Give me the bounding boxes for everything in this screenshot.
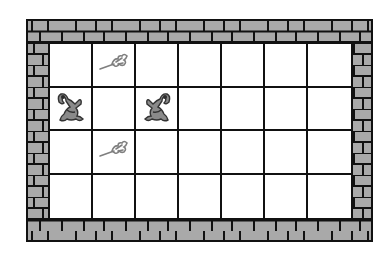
grid-cell-r2-c5[interactable] [265, 131, 308, 175]
frog-icon[interactable] [139, 88, 175, 128]
grid-cell-r3-c5[interactable] [265, 175, 308, 219]
grid-cell-r0-c5[interactable] [265, 44, 308, 88]
flower-icon [96, 132, 132, 172]
grid-cell-r2-c3[interactable] [179, 131, 222, 175]
play-grid [48, 42, 353, 220]
grid-cell-r0-c3[interactable] [179, 44, 222, 88]
grid-cell-r0-c2[interactable] [136, 44, 179, 88]
grid-cell-r0-c0[interactable] [50, 44, 93, 88]
grid-cell-r1-c0[interactable] [50, 88, 93, 132]
grid-cell-r1-c6[interactable] [308, 88, 351, 132]
grid-cell-r1-c2[interactable] [136, 88, 179, 132]
grid-cell-r2-c4[interactable] [222, 131, 265, 175]
grid-cell-r0-c4[interactable] [222, 44, 265, 88]
grid-cell-r3-c2[interactable] [136, 175, 179, 219]
grid-cell-r0-c1[interactable] [93, 44, 136, 88]
grid-cell-r2-c1[interactable] [93, 131, 136, 175]
grid-cell-r1-c1[interactable] [93, 88, 136, 132]
grid-cell-r1-c4[interactable] [222, 88, 265, 132]
grid-cell-r3-c6[interactable] [308, 175, 351, 219]
grid-cell-r2-c2[interactable] [136, 131, 179, 175]
frog-icon[interactable] [53, 88, 89, 128]
grid-cell-r2-c0[interactable] [50, 131, 93, 175]
grid-cell-r0-c6[interactable] [308, 44, 351, 88]
game-board [26, 19, 373, 242]
grid-cell-r2-c6[interactable] [308, 131, 351, 175]
flower-icon [96, 45, 132, 85]
grid-cell-r3-c0[interactable] [50, 175, 93, 219]
grid-cell-r3-c3[interactable] [179, 175, 222, 219]
grid-cell-r1-c3[interactable] [179, 88, 222, 132]
grid-cell-r1-c5[interactable] [265, 88, 308, 132]
grid-cell-r3-c1[interactable] [93, 175, 136, 219]
grid-cell-r3-c4[interactable] [222, 175, 265, 219]
